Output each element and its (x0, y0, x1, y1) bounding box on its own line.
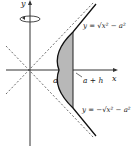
asymptote-negative (6, 46, 94, 138)
y-axis-arrow (28, 0, 32, 5)
hyperbola-diagram: y x a a + h y = √x² − a² y = −√x² − a² (0, 0, 140, 152)
y-axis-label: y (20, 0, 26, 8)
a-plus-h-pointer (76, 73, 82, 77)
x-axis-label: x (112, 74, 117, 83)
a-plus-h-label: a + h (83, 76, 104, 85)
lower-curve-label: y = −√x² − a² (81, 106, 131, 114)
x-axis-arrow (113, 68, 118, 72)
asymptote-positive (6, 2, 94, 94)
a-label: a (53, 76, 58, 85)
upper-curve-label: y = √x² − a² (82, 22, 126, 30)
